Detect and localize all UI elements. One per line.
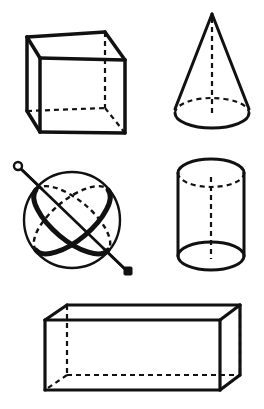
solids-canvas [0, 0, 264, 409]
cuboid-front-face [45, 320, 220, 390]
cuboid-top-face [45, 305, 240, 320]
cube-edge-bottom-front [40, 132, 125, 133]
geometric-solids-figure: Geometric Solids Line drawing of five th… [0, 0, 264, 409]
cube-edge-top-front [40, 58, 125, 60]
shape-cuboid [45, 305, 240, 390]
sphere-axis-knob-bottom [124, 267, 132, 275]
cube-front-face [40, 58, 125, 133]
shape-cube [27, 32, 125, 133]
shape-cylinder [178, 159, 244, 270]
sphere-axis-knob-top [14, 162, 22, 170]
